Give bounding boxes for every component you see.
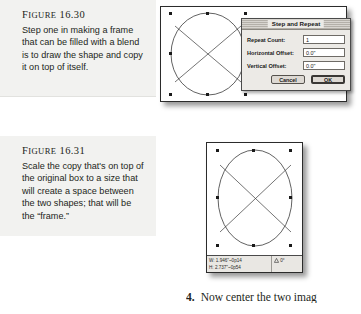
cancel-button[interactable]: Cancel — [271, 75, 305, 84]
measurements-palette: W: 1.946"~0p14 H: 2.737"~0p54 0° — [207, 255, 302, 272]
selection-handle[interactable] — [289, 196, 292, 199]
horizontal-offset-row: Horizontal Offset: 0.0" — [247, 48, 345, 57]
angle-readout: 0° — [274, 257, 300, 264]
step-text: Now center the two imag — [201, 291, 317, 303]
selection-handle[interactable] — [252, 244, 255, 247]
caption-divider-1 — [0, 96, 156, 97]
triangle-icon — [274, 258, 279, 263]
dialog-body: Repeat Count: 1 Horizontal Offset: 0.0" … — [242, 30, 350, 70]
height-readout: H: 2.737"~0p54 — [209, 264, 269, 271]
dialog-title-bar[interactable]: Step and Repeat — [242, 19, 350, 30]
vertical-offset-row: Vertical Offset: 0.0" — [247, 61, 345, 70]
figure-caption-text-16-31: Scale the copy that's on top of the orig… — [22, 160, 144, 222]
selection-handle[interactable] — [244, 12, 247, 15]
width-label: W: — [209, 258, 215, 263]
figure-artwork-16-31: W: 1.946"~0p14 H: 2.737"~0p54 0° — [206, 142, 303, 273]
width-value: 1.946"~0p14 — [216, 258, 242, 263]
step-and-repeat-dialog: Step and Repeat Repeat Count: 1 Horizont… — [241, 18, 351, 91]
selection-handle[interactable] — [216, 244, 219, 247]
selection-handle[interactable] — [169, 12, 172, 15]
selection-handle[interactable] — [252, 149, 255, 152]
ok-button[interactable]: OK — [311, 75, 345, 84]
repeat-count-input[interactable]: 1 — [303, 35, 345, 44]
angle-value: 0° — [280, 258, 284, 263]
width-readout: W: 1.946"~0p14 — [209, 257, 269, 264]
height-label: H: — [209, 265, 214, 270]
dialog-title-text: Step and Repeat — [268, 20, 324, 28]
measurements-angle[interactable]: 0° — [272, 256, 302, 272]
figure-caption-text-16-30: Step one in making a frame that can be f… — [22, 24, 144, 74]
step-number: 4. — [186, 291, 195, 303]
selection-handle[interactable] — [169, 93, 172, 96]
vertical-offset-label: Vertical Offset: — [247, 63, 303, 69]
selection-handle[interactable] — [216, 196, 219, 199]
figure-label-number: 16.31 — [60, 145, 86, 156]
numbered-step-4: 4.Now center the two imag — [186, 291, 361, 303]
dialog-button-row: Cancel OK — [242, 74, 350, 84]
figure-label-word: IGURE — [28, 10, 56, 20]
repeat-count-label: Repeat Count: — [247, 37, 303, 43]
selection-handle[interactable] — [206, 12, 209, 15]
height-value: 2.737"~0p54 — [215, 265, 241, 270]
horizontal-offset-input[interactable]: 0.0" — [303, 48, 345, 57]
artwork-canvas-2 — [207, 143, 302, 272]
selection-handle[interactable] — [216, 149, 219, 152]
figure-label-16-31: FIGURE 16.31 — [22, 145, 144, 156]
horizontal-offset-label: Horizontal Offset: — [247, 50, 303, 56]
figure-caption-16-30: FIGURE 16.30 Step one in making a frame … — [0, 0, 156, 96]
figure-label-16-30: FIGURE 16.30 — [22, 9, 144, 20]
figure-caption-16-31: FIGURE 16.31 Scale the copy that's on to… — [0, 136, 156, 236]
repeat-count-row: Repeat Count: 1 — [247, 35, 345, 44]
vertical-offset-input[interactable]: 0.0" — [303, 61, 345, 70]
selection-handle[interactable] — [244, 93, 247, 96]
selection-handle[interactable] — [169, 52, 172, 55]
selection-handle[interactable] — [289, 244, 292, 247]
figure-label-word: IGURE — [28, 146, 56, 156]
figure-label-number: 16.30 — [60, 9, 86, 20]
ellipse-with-x-icon — [207, 143, 302, 256]
measurements-dimensions[interactable]: W: 1.946"~0p14 H: 2.737"~0p54 — [207, 256, 272, 272]
selection-handle[interactable] — [206, 93, 209, 96]
selection-handle[interactable] — [289, 149, 292, 152]
